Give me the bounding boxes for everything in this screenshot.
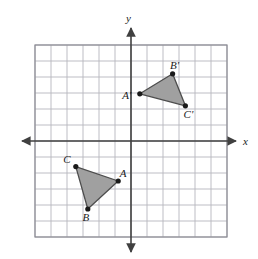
vertex-label-c-prime: C' (184, 108, 194, 120)
vertex-point-a (116, 178, 121, 183)
coordinate-plane-figure: x y ABCA'B'C' (0, 0, 258, 259)
vertex-point-c (73, 164, 78, 169)
x-axis-label: x (242, 135, 248, 147)
vertex-label-a-prime: A' (121, 89, 132, 101)
y-axis-label: y (125, 12, 131, 24)
vertex-label-c: C (63, 153, 71, 165)
vertex-point-b-prime (170, 71, 175, 76)
coordinate-plane-svg: x y ABCA'B'C' (0, 0, 258, 259)
vertex-point-a-prime (137, 91, 142, 96)
vertex-label-b-prime: B' (170, 59, 180, 71)
vertex-label-b: B (82, 211, 89, 223)
vertex-label-a: A (119, 167, 127, 179)
